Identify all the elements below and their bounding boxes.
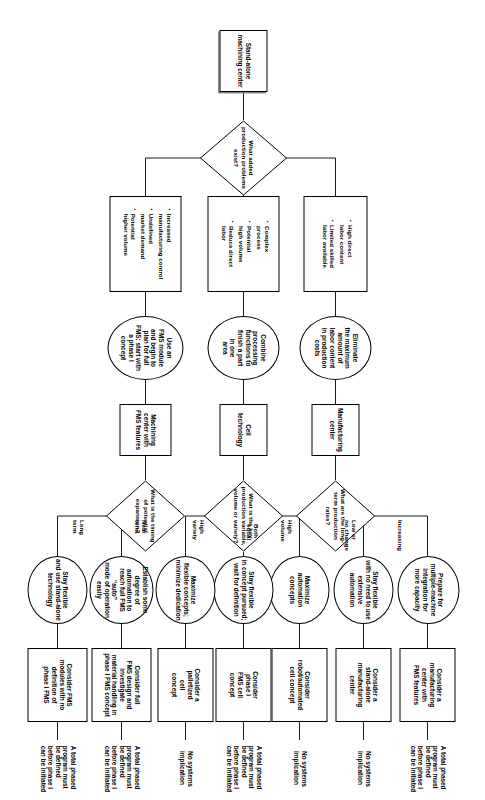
branch-bullet-list-1: High direct labor contentLimited skilled… — [317, 220, 353, 268]
implication-label-6: A total phased program must be defined b… — [102, 746, 140, 793]
system-manufacturing-center[interactable]: Manufacturing center — [311, 404, 359, 456]
implication-label-3: No systems implication — [291, 751, 306, 787]
concept-palletized-cell[interactable]: Consider a palletized cell concept — [157, 648, 213, 722]
system-cell-technology[interactable]: Cell technology — [219, 404, 267, 456]
strategy-eliminate-labor-content: Eliminate the maximum amount of labor co… — [299, 316, 371, 380]
implication-2: No systems implication — [341, 740, 385, 798]
page-canvas: Stand-alone machining center What added … — [0, 0, 485, 800]
decision-label: What added production problems exist? — [199, 120, 287, 196]
edge-label-both-equal: Both equal — [245, 524, 259, 540]
system-machining-center-fms[interactable]: Machining center with FMS features — [119, 404, 171, 456]
concept-manufacturing-center-fms[interactable]: Consider a manufacturing center with FMS… — [399, 648, 455, 722]
concept-label-7: Consider FMS modules with no definition … — [41, 658, 73, 712]
branch-bullet-list-2: Complex processPotential high volumeRedu… — [216, 221, 269, 267]
implication-1: A total phased program must be defined b… — [399, 740, 455, 798]
decision-added-production-problems[interactable]: What added production problems exist? — [199, 120, 287, 196]
decision-long-term-production-rates[interactable]: What are the long-term production rates? — [295, 480, 375, 552]
decision-label: What is the timing of potential expansio… — [105, 480, 185, 552]
strategy-label-3: Use an FMS module and begin to plan for … — [117, 323, 172, 373]
bullet-item: Potential higher volume — [121, 209, 136, 280]
bullet-item: Reduce direct labor — [219, 221, 234, 267]
start-node[interactable]: Stand-alone machining center — [219, 30, 267, 92]
edge-label-low-no-change: Low or no change — [343, 520, 357, 551]
flowchart-canvas: Stand-alone machining center What added … — [0, 0, 485, 800]
strategy-combine-processing: Combine processing functions to finish a… — [207, 316, 279, 380]
strategy-label-1: Eliminate the maximum amount of labor co… — [311, 325, 359, 370]
concept-label-3: Consider robot/automated cell concept — [287, 658, 312, 712]
approach-maximize-automation: Maximize automation concepts — [269, 556, 329, 624]
implication-6: A total phased program must be defined b… — [93, 740, 149, 798]
implication-label-7: A total phased program must be defined b… — [38, 746, 76, 793]
approach-stay-flexible-no-automation: Stay flexible with no need to use extens… — [333, 556, 393, 624]
concept-standalone-manufacturing-center[interactable]: Consider a stand-alone manufacturing cen… — [335, 648, 391, 722]
edge-label-high-variety: High variety — [191, 520, 205, 540]
implication-label-4: A total phased program must be defined b… — [224, 746, 262, 793]
approach-label-5: Maximize flexible concepts; minimize ded… — [173, 557, 198, 622]
concept-label-5: Consider a palletized cell concept — [169, 666, 201, 703]
implication-5: No systems implication — [163, 740, 207, 798]
approach-stay-flexible-wait: Stay flexible in concept pursued; wait f… — [213, 556, 273, 624]
system-label-1: Manufacturing center — [326, 406, 343, 454]
decision-key-production-variable[interactable]: What is the key production variable, vol… — [203, 480, 283, 552]
branch-bullet-list-3: Increased manufacturing controlUndefined… — [118, 209, 171, 280]
branch-problems-1: High direct labor contentLimited skilled… — [303, 196, 367, 292]
bullet-item: Potential high volume — [237, 221, 252, 267]
bullet-item: Complex process — [255, 221, 270, 267]
decision-label: What is the key production variable, vol… — [203, 480, 283, 552]
approach-label-2: Stay flexible with no need to use extens… — [347, 557, 379, 623]
implication-3: No systems implication — [277, 740, 321, 798]
concept-fms-modules-no-definition[interactable]: Consider FMS modules with no definition … — [27, 648, 87, 722]
implication-label-5: No systems implication — [177, 751, 192, 787]
bullet-item: High direct labor content — [338, 220, 353, 268]
implication-7: A total phased program must be defined b… — [29, 740, 85, 798]
system-label-3: Machining center with FMS features — [133, 408, 158, 452]
concept-label-2: Consider a stand-alone manufacturing cen… — [347, 661, 379, 709]
approach-label-6: Establish some degree of automation to r… — [93, 557, 148, 623]
edge-label-long-term: Long term — [71, 520, 85, 535]
approach-label-4: Stay flexible in concept pursued; wait f… — [231, 557, 256, 622]
approach-label-1: Prepare for multiple-machine integration… — [412, 562, 444, 619]
concept-label-1: Consider a manufacturing center with FMS… — [411, 661, 443, 709]
approach-maximize-flexible: Maximize flexible concepts; minimize ded… — [155, 556, 215, 624]
strategy-label-2: Combine processing functions to finish a… — [219, 328, 267, 369]
concept-phase-i-fms-cell[interactable]: Consider phase I FMS cell concept — [215, 648, 271, 722]
system-label-2: Cell technology — [234, 411, 251, 449]
approach-prepare-integration: Prepare for multiple-machine integration… — [397, 556, 459, 624]
bullet-item: Undefined market demand — [139, 209, 154, 280]
implication-label-2: No systems implication — [355, 751, 370, 787]
concept-label-6: Consider full FMS design and investigate… — [101, 651, 141, 719]
edge-label-high-volume: High volume — [279, 520, 293, 542]
bullet-item: Limited skilled labor available — [320, 220, 335, 268]
implication-label-1: A total phased program must be defined b… — [408, 746, 446, 793]
decision-timing-of-expansion[interactable]: What is the timing of potential expansio… — [105, 480, 185, 552]
concept-robot-automated-cell[interactable]: Consider robot/automated cell concept — [271, 648, 327, 722]
approach-label-7: Stay flexible and use stand-alone techno… — [45, 557, 70, 623]
branch-problems-2: Complex processPotential high volumeRedu… — [207, 196, 279, 292]
approach-stay-flexible-standalone: Stay flexible and use stand-alone techno… — [27, 556, 87, 624]
edge-label-increasing: Increasing — [396, 520, 403, 551]
concept-label-4: Consider phase I FMS cell concept — [227, 669, 259, 701]
strategy-use-fms-module: Use an FMS module and begin to plan for … — [107, 316, 183, 380]
start-node-label: Stand-alone machining center — [234, 31, 251, 91]
approach-establish-automation: Establish some degree of automation to r… — [89, 556, 153, 624]
concept-full-fms-design[interactable]: Consider full FMS design and investigate… — [91, 648, 151, 722]
approach-label-3: Maximize automation concepts — [287, 571, 312, 609]
implication-4: A total phased program must be defined b… — [215, 740, 271, 798]
branch-problems-3: Increased manufacturing controlUndefined… — [109, 196, 181, 292]
bullet-item: Increased manufacturing control — [157, 209, 172, 280]
decision-label: What are the long-term production rates? — [295, 480, 375, 552]
edge-label-near-term: Near term — [133, 520, 147, 534]
